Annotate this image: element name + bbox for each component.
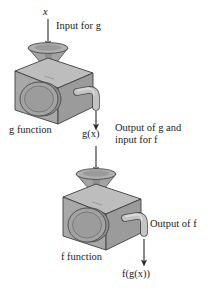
- label-output-of-g-line1: Output of g and: [115, 122, 181, 133]
- f-machine-dial: [68, 208, 109, 242]
- label-input-for-g: Input for g: [56, 20, 101, 31]
- label-intermediate-value: g(x): [82, 128, 100, 139]
- g-machine: [15, 43, 96, 124]
- diagram-graphics: [0, 0, 214, 291]
- label-g-function: g function: [9, 124, 52, 135]
- label-final-value: f(g(x)): [122, 268, 150, 279]
- f-machine: [63, 169, 144, 250]
- label-input-variable: x: [43, 6, 48, 17]
- function-machine-diagram: x Input for g g function g(x) Output of …: [0, 0, 214, 291]
- g-machine-dial: [20, 82, 61, 116]
- label-output-of-g: Output of g and input for f: [115, 122, 213, 145]
- label-f-function: f function: [61, 251, 102, 262]
- label-output-of-f: Output of f: [150, 218, 197, 229]
- label-output-of-g-line2: input for f: [115, 134, 158, 145]
